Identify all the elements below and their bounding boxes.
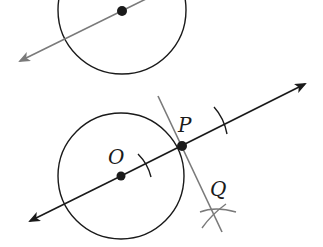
bottom-figure: O P Q	[30, 84, 305, 239]
line-OP-left	[30, 176, 121, 221]
center-point-O	[117, 172, 126, 181]
tangent-point-P	[177, 141, 187, 151]
diagram-canvas: O P Q	[0, 0, 323, 247]
label-P: P	[177, 113, 192, 137]
top-center-point	[117, 6, 127, 16]
arc-mark-left	[138, 154, 151, 177]
top-figure	[20, 0, 186, 74]
top-line-arrow	[20, 0, 150, 61]
label-O: O	[108, 145, 124, 169]
label-Q: Q	[210, 177, 226, 201]
arc-mark-right	[214, 107, 227, 134]
line-OP-right	[121, 84, 305, 176]
geometry-figure: O P Q	[0, 0, 323, 247]
